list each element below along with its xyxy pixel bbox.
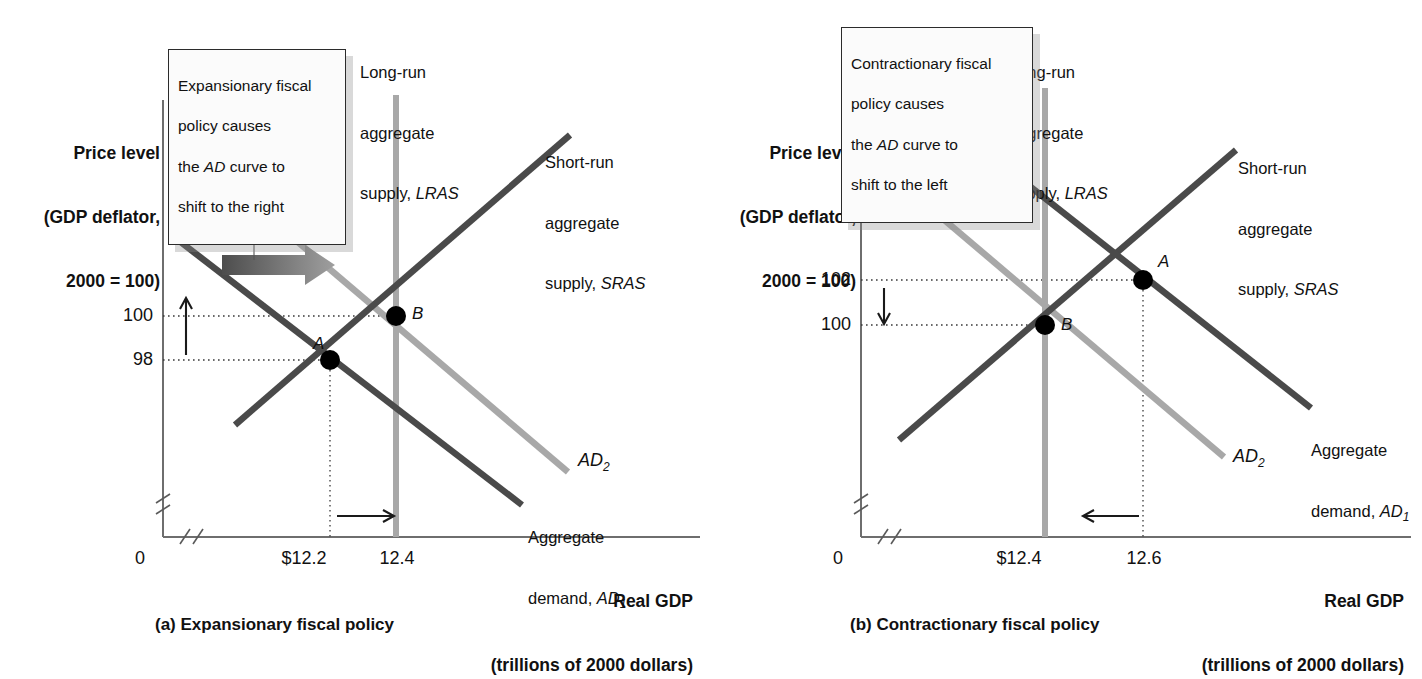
sras-label-line2: aggregate bbox=[545, 213, 646, 233]
ad2-subscript: 2 bbox=[1258, 456, 1265, 470]
sras-abbr: SRAS bbox=[1294, 280, 1339, 298]
y-axis-title-line2: (GDP deflator, bbox=[736, 207, 856, 228]
x-axis-title-line2: (trillions of 2000 dollars) bbox=[1091, 655, 1404, 676]
y-axis-title-line2: (GDP deflator, bbox=[40, 207, 160, 228]
ad1-subscript: 1 bbox=[1403, 510, 1410, 524]
y-tick-98: 98 bbox=[98, 349, 153, 371]
point-b-marker bbox=[386, 306, 406, 326]
ad2-subscript: 2 bbox=[603, 460, 610, 474]
x-axis-title-line2: (trillions of 2000 dollars) bbox=[380, 655, 693, 676]
callout-line4: shift to the left bbox=[851, 175, 1024, 195]
callout-line2: policy causes bbox=[851, 94, 1024, 114]
ad1-label-line2-wrap: demand, AD1 bbox=[528, 588, 626, 612]
x-axis-title-line1: Real GDP bbox=[1091, 591, 1404, 612]
callout-line3: the AD curve to bbox=[851, 135, 1024, 155]
callout-ad-abbr: AD bbox=[877, 136, 899, 153]
callout-line3-b: curve to bbox=[225, 158, 284, 175]
sras-label-line2: aggregate bbox=[1238, 219, 1339, 239]
lras-label-line2: aggregate bbox=[360, 123, 459, 143]
ad1-label-line1: Aggregate bbox=[528, 527, 626, 547]
y-axis-title-line3: 2000 = 100) bbox=[40, 271, 160, 292]
panel-a-caption: (a) Expansionary fiscal policy bbox=[155, 615, 394, 636]
ad1-subscript: 1 bbox=[620, 597, 627, 611]
ad1-curve bbox=[178, 240, 522, 505]
ad2-label: AD2 bbox=[1233, 446, 1265, 470]
callout-line3: the AD curve to bbox=[178, 157, 337, 177]
sras-label: Short-run aggregate supply, SRAS bbox=[545, 112, 646, 333]
sras-label-line3: supply, bbox=[1238, 280, 1294, 298]
sras-label-line1: Short-run bbox=[1238, 158, 1339, 178]
lras-abbr: LRAS bbox=[1065, 184, 1108, 202]
ad2-abbr: AD bbox=[578, 450, 603, 470]
y-tick-102: 102 bbox=[791, 269, 851, 291]
y-axis-title: Price level (GDP deflator, 2000 = 100) bbox=[736, 100, 856, 335]
lras-label-line3-wrap: supply, LRAS bbox=[360, 183, 459, 203]
callout-ad-abbr: AD bbox=[204, 158, 226, 175]
panel-expansionary: Price level (GDP deflator, 2000 = 100) 1… bbox=[0, 0, 711, 665]
guide-lines bbox=[163, 316, 396, 537]
ad1-label-line2: demand, bbox=[1311, 502, 1380, 520]
callout-line1: Contractionary fiscal bbox=[851, 54, 1024, 74]
point-b-label: B bbox=[412, 304, 423, 325]
point-a-marker bbox=[1133, 270, 1153, 290]
price-level-down-arrow bbox=[878, 288, 890, 324]
ad1-label-line2: demand, bbox=[528, 589, 597, 607]
point-b-label: B bbox=[1061, 315, 1072, 336]
callout-line1: Expansionary fiscal bbox=[178, 76, 337, 96]
sras-label: Short-run aggregate supply, SRAS bbox=[1238, 118, 1339, 339]
callout-box: Contractionary fiscal policy causes the … bbox=[841, 27, 1033, 223]
ad2-abbr: AD bbox=[1233, 446, 1258, 466]
gdp-left-arrow bbox=[1083, 510, 1139, 522]
sras-label-line3: supply, bbox=[545, 274, 601, 292]
sras-label-line3-wrap: supply, SRAS bbox=[545, 273, 646, 293]
ad1-label: Aggregate demand, AD1 bbox=[528, 487, 626, 652]
y-axis-title-line1: Price level bbox=[736, 143, 856, 164]
panel-contractionary: Price level (GDP deflator, 2000 = 100) 1… bbox=[711, 0, 1422, 665]
x-tick-12-2: $12.2 bbox=[274, 548, 334, 570]
shift-arrow-right bbox=[222, 245, 335, 285]
callout-box: Expansionary fiscal policy causes the AD… bbox=[168, 49, 346, 245]
lras-label-line3: supply, bbox=[360, 184, 416, 202]
point-a-label: A bbox=[1158, 252, 1169, 273]
ad1-abbr: AD bbox=[1380, 502, 1403, 520]
y-axis-title-line1: Price level bbox=[40, 143, 160, 164]
ad1-abbr: AD bbox=[597, 589, 620, 607]
callout-line4: shift to the right bbox=[178, 197, 337, 217]
sras-label-line3-wrap: supply, SRAS bbox=[1238, 279, 1339, 299]
origin-label: 0 bbox=[135, 548, 145, 570]
y-tick-100: 100 bbox=[98, 305, 153, 327]
x-axis-title: Real GDP (trillions of 2000 dollars) bbox=[1091, 548, 1404, 679]
y-axis-title: Price level (GDP deflator, 2000 = 100) bbox=[40, 100, 160, 335]
origin-label: 0 bbox=[833, 548, 843, 570]
callout-line3-a: the bbox=[178, 158, 204, 175]
lras-label-line1: Long-run bbox=[360, 62, 459, 82]
price-level-up-arrow bbox=[180, 298, 192, 355]
ad1-label: Aggregate demand, AD1 bbox=[1311, 400, 1409, 565]
lras-label: Long-run aggregate supply, LRAS bbox=[360, 22, 459, 243]
ad1-label-line2-wrap: demand, AD1 bbox=[1311, 501, 1409, 525]
sras-abbr: SRAS bbox=[601, 274, 646, 292]
point-b-marker bbox=[1035, 315, 1055, 335]
callout-line2: policy causes bbox=[178, 116, 337, 136]
sras-label-line1: Short-run bbox=[545, 152, 646, 172]
lras-abbr: LRAS bbox=[416, 184, 459, 202]
ad1-label-line1: Aggregate bbox=[1311, 440, 1409, 460]
y-tick-100: 100 bbox=[791, 314, 851, 336]
panel-b-caption: (b) Contractionary fiscal policy bbox=[850, 615, 1099, 636]
callout-line3-a: the bbox=[851, 136, 877, 153]
ad2-label: AD2 bbox=[578, 450, 610, 474]
x-tick-12-4: $12.4 bbox=[989, 548, 1049, 570]
callout-line3-b: curve to bbox=[898, 136, 957, 153]
guide-lines bbox=[861, 280, 1143, 537]
point-a-label: A bbox=[313, 334, 324, 355]
gdp-right-arrow bbox=[337, 510, 394, 522]
